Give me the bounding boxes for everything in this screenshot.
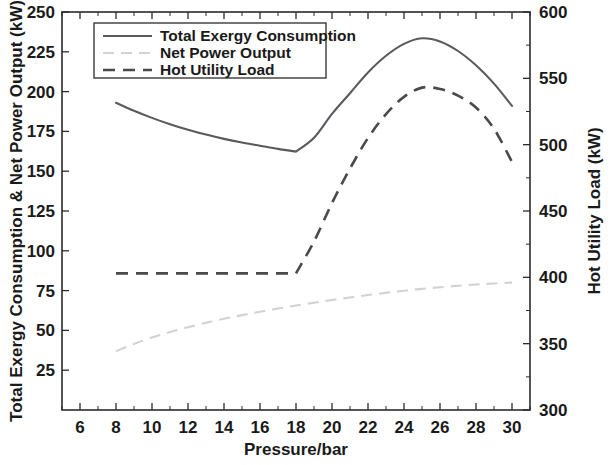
y-tick-label-right: 400 xyxy=(539,268,567,287)
y-tick-label-right: 500 xyxy=(539,136,567,155)
y-axis-left-ticks xyxy=(62,12,69,370)
legend-label-total-exergy-consumption: Total Exergy Consumption xyxy=(160,27,356,44)
x-tick-label: 12 xyxy=(179,418,198,437)
series-hot-utility-load xyxy=(116,87,512,273)
legend-label-hot-utility-load: Hot Utility Load xyxy=(160,61,275,78)
chart-svg: 681012141618202224262830 255075100125150… xyxy=(0,0,612,465)
x-tick-label: 30 xyxy=(503,418,522,437)
x-tick-label: 14 xyxy=(215,418,234,437)
y-tick-label-left: 200 xyxy=(27,83,55,102)
y-tick-label-left: 175 xyxy=(27,122,55,141)
x-tick-label: 10 xyxy=(143,418,162,437)
y-tick-label-left: 25 xyxy=(36,361,55,380)
x-tick-label: 6 xyxy=(75,418,84,437)
x-tick-label: 26 xyxy=(431,418,450,437)
y-axis-right-tick-labels: 300350400450500550600 xyxy=(539,3,567,420)
x-tick-label: 8 xyxy=(111,418,120,437)
x-axis-title: Pressure/bar xyxy=(244,440,348,459)
y-tick-label-left: 225 xyxy=(27,43,55,62)
y-tick-label-left: 100 xyxy=(27,242,55,261)
y-tick-label-right: 350 xyxy=(539,335,567,354)
chart-legend: Total Exergy Consumption Net Power Outpu… xyxy=(94,23,356,78)
y-tick-label-right: 450 xyxy=(539,202,567,221)
y-axis-left-title: Total Exergy Consumption & Net Power Out… xyxy=(7,0,26,422)
legend-label-net-power-output: Net Power Output xyxy=(160,44,291,61)
y-tick-label-left: 125 xyxy=(27,202,55,221)
y-tick-label-right: 300 xyxy=(539,401,567,420)
y-axis-right-ticks xyxy=(523,12,530,410)
y-tick-label-left: 50 xyxy=(36,321,55,340)
y-axis-right-title: Hot Utility Load (kW) xyxy=(585,127,604,294)
y-tick-label-left: 150 xyxy=(27,162,55,181)
x-tick-label: 28 xyxy=(467,418,486,437)
y-tick-label-left: 75 xyxy=(36,282,55,301)
chart-figure: 681012141618202224262830 255075100125150… xyxy=(0,0,612,465)
y-tick-label-right: 600 xyxy=(539,3,567,22)
series-net-power-output xyxy=(116,283,512,351)
x-tick-label: 24 xyxy=(395,418,414,437)
x-tick-label: 22 xyxy=(359,418,378,437)
y-tick-label-left: 250 xyxy=(27,3,55,22)
y-axis-left-tick-labels: 255075100125150175200225250 xyxy=(27,3,55,380)
x-tick-label: 16 xyxy=(251,418,270,437)
x-tick-label: 18 xyxy=(287,418,306,437)
y-tick-label-right: 550 xyxy=(539,69,567,88)
x-tick-label: 20 xyxy=(323,418,342,437)
x-axis-tick-labels: 681012141618202224262830 xyxy=(75,418,521,437)
